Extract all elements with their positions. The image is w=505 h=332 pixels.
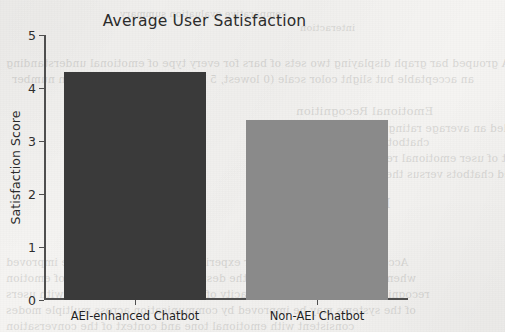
- y-axis-label: Satisfaction Score: [6, 35, 24, 300]
- y-tick-label: 1: [28, 240, 36, 255]
- y-tick-label: 0: [28, 293, 36, 308]
- x-tick-label: AEI-enhanced Chatbot: [71, 309, 200, 323]
- x-tick-mark: [135, 300, 136, 305]
- x-tick-label: Non-AEI Chatbot: [270, 309, 365, 323]
- bar-aei-enhanced-chatbot: [64, 72, 206, 300]
- y-tick-mark: [39, 247, 44, 248]
- plot-area: 012345 AEI-enhanced ChatbotNon-AEI Chatb…: [44, 35, 408, 300]
- y-tick-label: 4: [28, 81, 36, 96]
- x-tick-mark: [317, 300, 318, 305]
- y-tick-mark: [39, 300, 44, 301]
- chart-title: Average User Satisfaction: [0, 12, 505, 30]
- y-tick-mark: [39, 141, 44, 142]
- y-tick-mark: [39, 194, 44, 195]
- y-tick-mark: [39, 88, 44, 89]
- y-tick-label: 2: [28, 187, 36, 202]
- y-tick-mark: [39, 35, 44, 36]
- chart-figure: Average User Satisfaction Satisfaction S…: [0, 0, 505, 332]
- y-tick-label: 3: [28, 134, 36, 149]
- y-axis-spine: [44, 35, 46, 300]
- y-axis-label-text: Satisfaction Score: [8, 110, 23, 224]
- y-tick-label: 5: [28, 28, 36, 43]
- bar-non-aei-chatbot: [246, 120, 388, 300]
